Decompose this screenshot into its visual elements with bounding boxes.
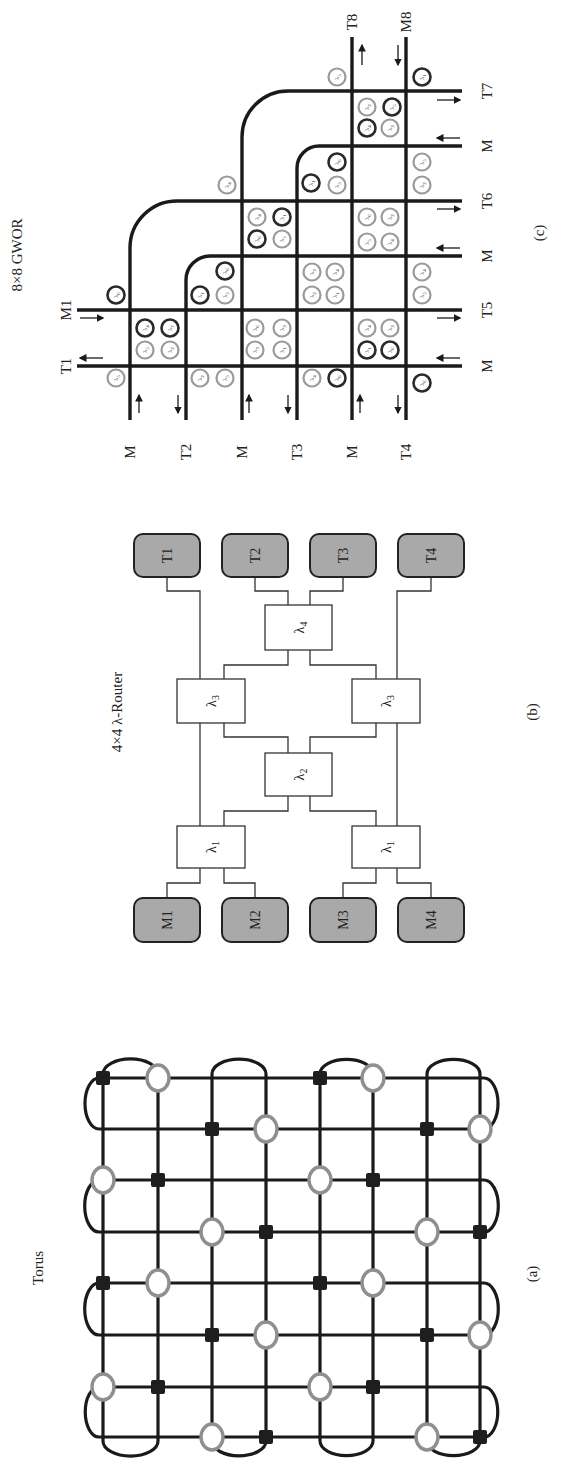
torus-memory-node-icon bbox=[469, 1116, 491, 1142]
torus-router-node-icon bbox=[366, 1173, 380, 1187]
router-terminal-label: M2 bbox=[248, 910, 263, 929]
torus-memory-node-icon bbox=[362, 1065, 384, 1091]
router-terminal-label: T4 bbox=[424, 548, 439, 564]
gwor-port-label-bottom: M bbox=[122, 445, 138, 458]
router-waveguide bbox=[310, 650, 376, 679]
torus-wrap-loop-left bbox=[85, 1078, 103, 1129]
torus-router-node-icon bbox=[420, 1328, 434, 1342]
torus-router-node-icon bbox=[473, 1430, 487, 1444]
router-caption: (b) bbox=[524, 703, 541, 721]
torus-wrap-loop-left bbox=[85, 1283, 103, 1335]
router-terminal-label: M4 bbox=[424, 910, 439, 929]
torus-memory-node-icon bbox=[309, 1374, 331, 1400]
torus-router-node-icon bbox=[473, 1225, 487, 1239]
torus-router-node-icon bbox=[259, 1430, 273, 1444]
panel-gwor: T7MT6MT5M1MT1MT2MT3MT8T4M8λ6λ5λ4λ7λ5λ2λ1… bbox=[9, 12, 548, 461]
torus-router-node-icon bbox=[259, 1225, 273, 1239]
torus-router-node-icon bbox=[151, 1380, 165, 1394]
router-terminal-label: T2 bbox=[248, 548, 263, 564]
router-waveguide bbox=[397, 577, 431, 679]
router-waveguide bbox=[167, 868, 200, 898]
router-terminal-label: T1 bbox=[160, 548, 175, 564]
gwor-port-label-bottom: M bbox=[234, 445, 250, 458]
router-waveguide bbox=[397, 868, 431, 898]
torus-memory-node-icon bbox=[147, 1270, 169, 1296]
router-title: 4×4 λ-Router bbox=[109, 672, 125, 752]
torus-router-node-icon bbox=[366, 1380, 380, 1394]
router-waveguide bbox=[343, 868, 376, 898]
gwor-port-label-top: M8 bbox=[398, 12, 414, 33]
router-terminal-label: M1 bbox=[160, 910, 175, 929]
gwor-port-label-right: M bbox=[479, 249, 495, 262]
gwor-port-label-bottom: T2 bbox=[178, 444, 194, 461]
torus-router-node-icon bbox=[313, 1071, 327, 1085]
torus-router-node-icon bbox=[151, 1173, 165, 1187]
gwor-port-label-right: T5 bbox=[479, 302, 495, 319]
gwor-port-label-bottom: M bbox=[344, 445, 360, 458]
torus-router-node-icon bbox=[420, 1122, 434, 1136]
router-terminal-label: T3 bbox=[336, 548, 351, 564]
torus-memory-node-icon bbox=[255, 1322, 277, 1348]
gwor-port-label-bottom: T3 bbox=[289, 444, 305, 461]
gwor-port-label-top: T8 bbox=[344, 14, 360, 31]
torus-wrap-loop-top bbox=[212, 1059, 266, 1078]
torus-memory-node-icon bbox=[147, 1065, 169, 1091]
torus-memory-node-icon bbox=[201, 1424, 223, 1450]
torus-memory-node-icon bbox=[416, 1219, 438, 1245]
router-waveguide bbox=[310, 796, 376, 826]
router-waveguide bbox=[167, 577, 200, 679]
router-waveguide bbox=[224, 868, 255, 898]
torus-router-node-icon bbox=[205, 1328, 219, 1342]
torus-router-node-icon bbox=[205, 1122, 219, 1136]
torus-router-node-icon bbox=[313, 1276, 327, 1290]
router-waveguide bbox=[224, 796, 288, 826]
gwor-port-label-right: T6 bbox=[479, 192, 495, 209]
gwor-port-label-right: T7 bbox=[479, 82, 495, 99]
figure-canvas: T7MT6MT5M1MT1MT2MT3MT8T4M8λ6λ5λ4λ7λ5λ2λ1… bbox=[0, 0, 565, 1473]
router-waveguide bbox=[224, 723, 288, 753]
torus-wrap-loop-bottom bbox=[103, 1437, 158, 1456]
torus-caption: (a) bbox=[524, 1266, 541, 1283]
panel-lambda-router: T1T2T3T4M1M2M3M4λ4λ3λ3λ2λ1λ14×4 λ-Router… bbox=[109, 534, 541, 942]
torus-memory-node-icon bbox=[201, 1219, 223, 1245]
gwor-port-label-right: M bbox=[479, 139, 495, 152]
router-waveguide bbox=[224, 650, 288, 679]
torus-router-node-icon bbox=[96, 1071, 110, 1085]
router-waveguide bbox=[310, 723, 376, 753]
torus-memory-node-icon bbox=[92, 1167, 114, 1193]
router-waveguide bbox=[310, 577, 343, 605]
torus-router-node-icon bbox=[96, 1276, 110, 1290]
gwor-port-label-left: M1 bbox=[58, 300, 74, 321]
torus-memory-node-icon bbox=[255, 1116, 277, 1142]
router-terminal-label: M3 bbox=[336, 910, 351, 929]
gwor-port-label-bottom: T4 bbox=[398, 443, 414, 460]
torus-memory-node-icon bbox=[469, 1322, 491, 1348]
torus-wrap-loop-right bbox=[480, 1387, 498, 1437]
torus-memory-node-icon bbox=[92, 1374, 114, 1400]
gwor-port-label-left: T1 bbox=[58, 358, 74, 375]
gwor-caption: (c) bbox=[531, 225, 548, 242]
torus-memory-node-icon bbox=[309, 1167, 331, 1193]
torus-memory-node-icon bbox=[416, 1424, 438, 1450]
torus-wrap-loop-right bbox=[480, 1180, 498, 1232]
gwor-port-label-right: M bbox=[479, 359, 495, 372]
torus-title: Torus bbox=[30, 1251, 46, 1285]
gwor-bent-waveguide bbox=[186, 256, 210, 420]
panel-torus: Torus(a) bbox=[30, 1059, 541, 1456]
torus-memory-node-icon bbox=[362, 1270, 384, 1296]
torus-wrap-loop-top bbox=[427, 1059, 480, 1078]
torus-wrap-loop-bottom bbox=[320, 1437, 373, 1456]
router-waveguide bbox=[255, 577, 288, 605]
gwor-title: 8×8 GWOR bbox=[9, 218, 25, 291]
